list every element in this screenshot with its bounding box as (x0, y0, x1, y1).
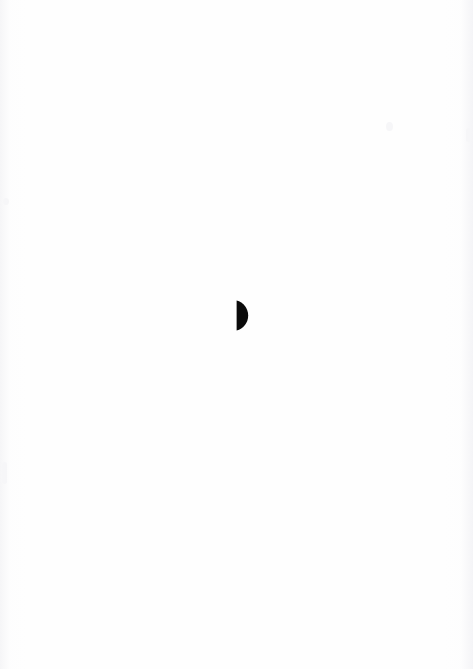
scanned-page (0, 0, 473, 669)
half-disc-mark (236, 300, 252, 331)
mark-layer (0, 0, 473, 669)
